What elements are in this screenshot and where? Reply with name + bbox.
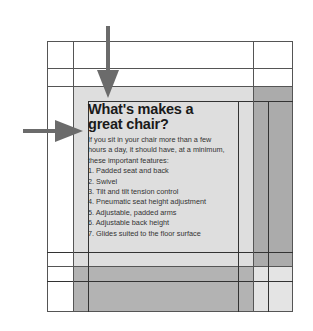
intro-line-2: hours a day, it should have, at a minimu… (88, 145, 240, 155)
grid-row-line-2 (47, 86, 293, 87)
grid-col-line-1 (73, 41, 74, 312)
feature-item: 2. Swivel (88, 177, 240, 187)
grid-col-line-4 (253, 41, 254, 312)
grid-row-line-6 (47, 281, 293, 282)
grid-row-line-5 (47, 266, 293, 267)
arrow-right-icon (23, 119, 85, 143)
feature-item: 3. Tilt and tilt tension control (88, 187, 240, 197)
article-body: If you sit in your chair more than a few… (88, 135, 240, 239)
arrow-down-icon (96, 26, 120, 100)
intro-line-3: these important features: (88, 156, 240, 166)
feature-item: 1. Padded seat and back (88, 166, 240, 176)
grid-row-line-4 (47, 252, 293, 253)
grid-row-line-1 (47, 68, 293, 69)
article-text-block: What's makes a great chair? If you sit i… (88, 102, 240, 239)
article-heading: What's makes a great chair? (88, 102, 240, 132)
feature-item: 5. Adjustable, padded arms (88, 208, 240, 218)
feature-item: 6. Adjustable back height (88, 218, 240, 228)
feature-item: 7. Glides suited to the floor surface (88, 229, 240, 239)
heading-line-2: great chair? (88, 116, 169, 132)
grid-col-line-5 (268, 101, 269, 312)
intro-line-1: If you sit in your chair more than a few (88, 135, 240, 145)
feature-list: 1. Padded seat and back 2. Swivel 3. Til… (88, 166, 240, 239)
heading-line-1: What's makes a (88, 101, 193, 117)
layout-grid-diagram: What's makes a great chair? If you sit i… (0, 0, 313, 331)
feature-item: 4. Pneumatic seat height adjustment (88, 197, 240, 207)
